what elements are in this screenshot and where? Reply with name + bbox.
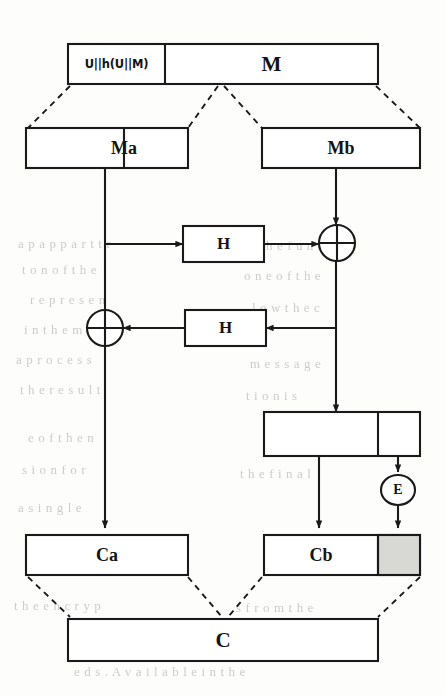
split-connector-ma-left (28, 86, 70, 128)
hash-box-top (183, 226, 264, 262)
cipher-block-tail (378, 535, 420, 575)
split-connector-mb-right (376, 86, 420, 128)
merge-connector-ca-left (28, 577, 70, 617)
encrypt-node (381, 475, 415, 505)
intermediate-block (264, 412, 420, 456)
block-mb (262, 128, 420, 168)
authenticator-message-bar (68, 44, 378, 84)
merge-connector-ca-right (188, 577, 222, 617)
diagram-canvas: a p a p p a r t t rt o n o f t h er e p … (0, 0, 445, 695)
merge-connector-cb-left (228, 577, 262, 617)
diagram-vector-layer (0, 0, 445, 695)
block-ma (26, 128, 188, 168)
split-connector-mb-left (224, 86, 262, 128)
split-connector-ma-right (188, 86, 218, 128)
cipher-block-ca (26, 535, 188, 575)
merge-connector-cb-right (378, 577, 420, 617)
hash-box-bottom (185, 310, 266, 346)
cipher-block-c (68, 619, 378, 661)
